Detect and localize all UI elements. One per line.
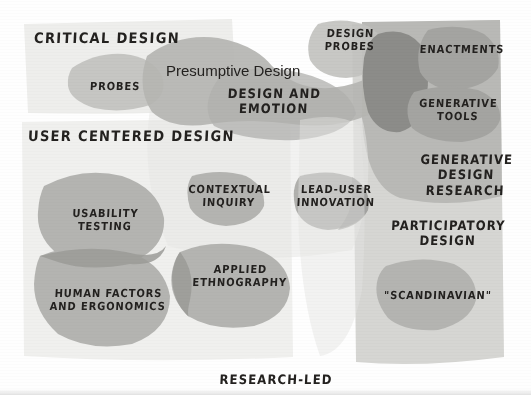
diagram-shapes bbox=[0, 0, 531, 395]
blob-generative-tools bbox=[407, 86, 500, 142]
center-right-wash bbox=[298, 117, 365, 356]
blob-scandinavian bbox=[376, 259, 476, 330]
diagram-canvas: CRITICAL DESIGN USER CENTERED DESIGN GEN… bbox=[0, 0, 531, 395]
